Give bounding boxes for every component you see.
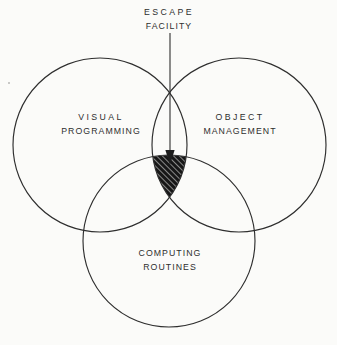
label-escape-facility: ESCAPE FACILITY (109, 5, 229, 33)
circle-object-management[interactable] (152, 58, 326, 232)
label-object-management-line1: OBJECT (182, 110, 298, 124)
circle-visual-programming[interactable] (13, 58, 187, 232)
label-visual-programming: VISUAL PROGRAMMING (43, 110, 159, 138)
label-computing-routines-line2: ROUTINES (111, 260, 229, 274)
label-computing-routines-line1: COMPUTING (111, 246, 229, 260)
label-computing-routines: COMPUTING ROUTINES (111, 246, 229, 274)
scan-speck-artifact (8, 82, 10, 84)
label-escape-facility-line1: ESCAPE (109, 5, 229, 19)
figure-canvas: ESCAPE FACILITY VISUAL PROGRAMMING OBJEC… (0, 0, 337, 345)
label-escape-facility-line2: FACILITY (109, 19, 229, 33)
label-visual-programming-line1: VISUAL (43, 110, 159, 124)
venn-diagram-svg (0, 0, 337, 345)
label-visual-programming-line2: PROGRAMMING (43, 124, 159, 138)
label-object-management: OBJECT MANAGEMENT (182, 110, 298, 138)
label-object-management-line2: MANAGEMENT (182, 124, 298, 138)
